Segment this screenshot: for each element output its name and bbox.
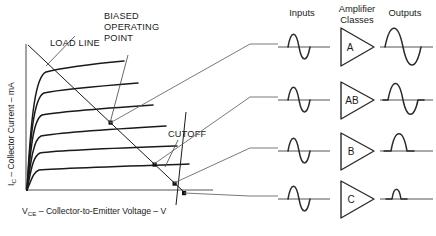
header-amplifier-classes-line1: Amplifier xyxy=(339,3,375,14)
curve-5 xyxy=(27,146,177,190)
curve-4 xyxy=(27,126,166,190)
amplifier-symbol-c xyxy=(341,181,374,218)
header-amplifier-classes-line2: Classes xyxy=(340,14,374,25)
amplifier-row-class-b: B xyxy=(278,133,433,170)
svg-text:IC – Collector Current – mA: IC – Collector Current – mA xyxy=(6,82,17,186)
x-axis-subscript: CE xyxy=(28,210,37,217)
amplifier-class-label-ab: AB xyxy=(345,95,359,106)
x-axis-title: VCE – Collector-to-Emitter Voltage – V xyxy=(22,206,167,217)
label-biased-line2: OPERATING xyxy=(104,22,159,32)
connector-class-c xyxy=(184,193,278,196)
label-biased-line1: BIASED xyxy=(104,11,139,21)
curve-6 xyxy=(27,164,189,190)
x-axis-text: – Collector-to-Emitter Voltage – V xyxy=(36,206,166,216)
label-biased-operating-point: BIASED OPERATING POINT xyxy=(104,11,159,43)
y-axis-title: IC – Collector Current – mA xyxy=(6,82,17,186)
output-waveform-c xyxy=(386,189,407,199)
header-inputs: Inputs xyxy=(289,7,315,18)
leader-cutoff xyxy=(165,140,178,167)
amplifier-classes-diagram: LOAD LINE BIASED OPERATING POINT CUTOFF … xyxy=(0,0,436,236)
header-outputs: Outputs xyxy=(389,7,422,18)
output-waveform-ab xyxy=(383,84,424,115)
y-axis-text: – Collector Current – mA xyxy=(6,82,16,179)
amplifier-row-class-ab: AB xyxy=(278,82,433,119)
connector-lines xyxy=(110,44,278,196)
amplifier-row-class-c: C xyxy=(278,181,433,218)
label-cutoff: CUTOFF xyxy=(168,129,206,139)
amplifier-class-label-c: C xyxy=(347,194,354,205)
label-biased-line3: POINT xyxy=(104,33,133,43)
leader-biased-operating-point xyxy=(110,55,128,123)
connector-class-b xyxy=(174,148,278,183)
characteristic-curves xyxy=(27,61,189,190)
load-line xyxy=(28,45,184,192)
label-load-line: LOAD LINE xyxy=(50,38,100,48)
curve-1 xyxy=(27,61,124,190)
column-headers: Inputs Amplifier Classes Outputs xyxy=(289,3,421,25)
characteristic-curve-graph: LOAD LINE BIASED OPERATING POINT CUTOFF … xyxy=(6,11,213,217)
amplifier-class-label-a: A xyxy=(347,42,354,53)
amplifier-class-label-b: B xyxy=(348,146,355,157)
amplifier-row-class-a: A xyxy=(278,28,433,66)
output-waveform-b xyxy=(384,134,414,151)
curve-2 xyxy=(27,83,138,190)
amplifier-symbol-b xyxy=(341,133,374,170)
